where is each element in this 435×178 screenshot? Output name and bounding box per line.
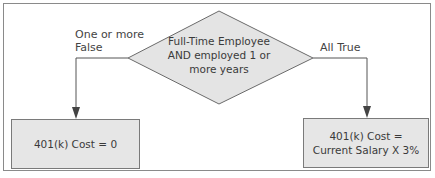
decision-line1: Full-Time Employee [163, 34, 275, 48]
true-outcome-line2: Current Salary X 3% [313, 143, 419, 157]
decision-text: Full-Time Employee AND employed 1 or mor… [163, 34, 275, 76]
false-branch-label: One or more False [75, 28, 144, 54]
true-arrowhead-icon [363, 106, 371, 118]
false-label-line1: One or more [75, 28, 144, 41]
decision-line3: more years [163, 62, 275, 76]
outcome-box-false: 401(k) Cost = 0 [11, 119, 140, 169]
outcome-box-true: 401(k) Cost = Current Salary X 3% [303, 118, 429, 168]
false-branch-line [76, 58, 128, 110]
false-outcome-text: 401(k) Cost = 0 [34, 137, 117, 151]
false-label-line2: False [75, 41, 144, 54]
true-branch-line [313, 58, 367, 109]
true-branch-label: All True [320, 41, 361, 54]
decision-line2: AND employed 1 or [163, 48, 275, 62]
true-outcome-line1: 401(k) Cost = [329, 129, 402, 143]
false-arrowhead-icon [72, 107, 80, 119]
